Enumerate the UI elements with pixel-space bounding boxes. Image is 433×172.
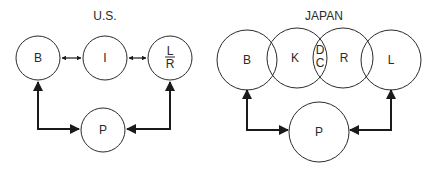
japan-title: JAPAN [305, 9, 343, 23]
us-node-lr: L R [148, 36, 192, 80]
japan-node-k-label: K [291, 51, 299, 65]
japan-node-l-label: L [388, 53, 395, 67]
us-node-b-label: B [34, 51, 42, 65]
japan-node-p-label: P [315, 125, 323, 139]
comparison-diagram: U.S. B I L R P JAPAN B [0, 0, 433, 172]
us-node-i: I [83, 36, 127, 80]
us-diagram: U.S. B I L R P [16, 9, 192, 152]
japan-arrow-l-p [350, 90, 391, 130]
japan-node-dc-top-label: D [316, 43, 325, 57]
us-arrow-b-p [38, 82, 79, 129]
us-node-lr-bottom-label: R [166, 57, 175, 71]
us-node-p: P [81, 108, 125, 152]
japan-node-l: L [361, 30, 421, 90]
japan-node-b-label: B [243, 53, 251, 67]
us-node-b: B [16, 36, 60, 80]
us-node-i-label: I [103, 51, 106, 65]
japan-node-p: P [289, 102, 349, 162]
japan-node-r-label: R [340, 51, 349, 65]
japan-diagram: JAPAN B K R L D C P [217, 9, 421, 162]
japan-node-b: B [217, 30, 277, 90]
us-node-lr-top-label: L [167, 44, 174, 58]
us-title: U.S. [93, 9, 116, 23]
us-arrow-lr-p [127, 82, 170, 129]
japan-node-dc: D C [316, 43, 325, 70]
us-node-p-label: P [99, 123, 107, 137]
japan-arrow-b-p [247, 90, 288, 130]
japan-node-dc-bottom-label: C [316, 56, 325, 70]
